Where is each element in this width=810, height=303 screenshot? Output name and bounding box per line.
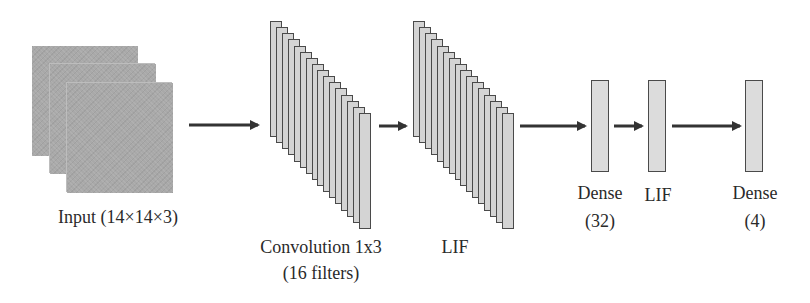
arrows-layer bbox=[0, 0, 810, 303]
